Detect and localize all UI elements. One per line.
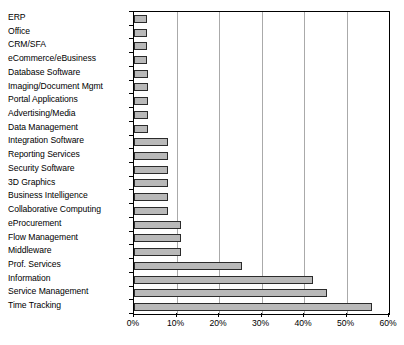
category-label: Flow Management xyxy=(0,231,128,245)
bar-row xyxy=(134,94,389,108)
x-axis-tick xyxy=(346,313,347,317)
bar xyxy=(134,248,181,256)
x-axis-label: 10% xyxy=(167,318,184,328)
bar xyxy=(134,111,148,119)
bar xyxy=(134,56,147,64)
x-axis-tick xyxy=(133,313,134,317)
category-label: Collaborative Computing xyxy=(0,203,128,217)
x-axis-label: 40% xyxy=(294,318,311,328)
category-label: 3D Graphics xyxy=(0,176,128,190)
bar xyxy=(134,70,148,78)
bar-row xyxy=(134,259,389,273)
x-axis-label: 30% xyxy=(252,318,269,328)
bar-row xyxy=(134,135,389,149)
bar-row xyxy=(134,204,389,218)
category-label: Middleware xyxy=(0,244,128,258)
plot-area xyxy=(133,11,390,315)
bar xyxy=(134,179,168,187)
bar xyxy=(134,262,242,270)
bar-row xyxy=(134,26,389,40)
category-label: eCommerce/eBusiness xyxy=(0,52,128,66)
bar-row xyxy=(134,122,389,136)
category-label: Service Management xyxy=(0,285,128,299)
category-label: Advertising/Media xyxy=(0,107,128,121)
category-label: Time Tracking xyxy=(0,299,128,313)
x-axis-labels: 0%10%20%30%40%50%60% xyxy=(0,318,404,334)
bar-row xyxy=(134,39,389,53)
bar xyxy=(134,29,147,37)
x-axis-label: 20% xyxy=(209,318,226,328)
bar xyxy=(134,152,168,160)
x-axis-tick xyxy=(303,313,304,317)
bar-row xyxy=(134,218,389,232)
bar-row xyxy=(134,108,389,122)
category-label: Office xyxy=(0,25,128,39)
bar-row xyxy=(134,12,389,26)
bar xyxy=(134,193,168,201)
bar xyxy=(134,97,148,105)
bar-row xyxy=(134,232,389,246)
category-label: ERP xyxy=(0,11,128,25)
category-label: Information xyxy=(0,272,128,286)
category-label: Reporting Services xyxy=(0,148,128,162)
category-label: Security Software xyxy=(0,162,128,176)
category-axis-labels: ERPOfficeCRM/SFAeCommerce/eBusinessDatab… xyxy=(0,11,128,313)
bar xyxy=(134,289,327,297)
bar xyxy=(134,42,147,50)
x-axis-label: 0% xyxy=(127,318,139,328)
category-label: Imaging/Document Mgmt xyxy=(0,80,128,94)
bar xyxy=(134,221,181,229)
bar-row xyxy=(134,273,389,287)
bar xyxy=(134,207,168,215)
bar xyxy=(134,125,148,133)
category-label: CRM/SFA xyxy=(0,38,128,52)
category-label: Integration Software xyxy=(0,134,128,148)
x-axis-label: 60% xyxy=(379,318,396,328)
bar-row xyxy=(134,177,389,191)
category-label: Portal Applications xyxy=(0,93,128,107)
bar xyxy=(134,83,148,91)
bar xyxy=(134,303,372,311)
category-label: Database Software xyxy=(0,66,128,80)
bar-row xyxy=(134,300,389,314)
bar-row xyxy=(134,81,389,95)
category-label: Prof. Services xyxy=(0,258,128,272)
bar-row xyxy=(134,286,389,300)
category-label: Data Management xyxy=(0,121,128,135)
bar-row xyxy=(134,163,389,177)
bar-row xyxy=(134,149,389,163)
x-axis-tick xyxy=(261,313,262,317)
bar xyxy=(134,15,147,23)
category-label: eProcurement xyxy=(0,217,128,231)
bar xyxy=(134,234,181,242)
bar-row xyxy=(134,245,389,259)
x-axis-label: 50% xyxy=(337,318,354,328)
bar xyxy=(134,166,168,174)
x-axis-tick xyxy=(218,313,219,317)
x-axis-tick xyxy=(176,313,177,317)
horizontal-bar-chart: ERPOfficeCRM/SFAeCommerce/eBusinessDatab… xyxy=(0,0,404,345)
bar-row xyxy=(134,190,389,204)
bar xyxy=(134,276,313,284)
bar-row xyxy=(134,53,389,67)
x-axis-tick xyxy=(388,313,389,317)
category-label: Business Intelligence xyxy=(0,189,128,203)
bar-series xyxy=(134,12,389,314)
bar xyxy=(134,138,168,146)
bar-row xyxy=(134,67,389,81)
